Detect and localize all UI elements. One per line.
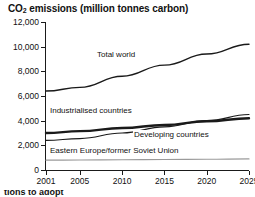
y-tick [41,71,45,72]
y-tick [41,96,45,97]
x-tick-label: 2005 [70,176,89,186]
y-tick-label: 8,000 [0,66,39,76]
x-tick [164,171,165,175]
y-tick [41,22,45,23]
x-axis-line [45,170,249,171]
chart-title-prefix: CO [8,3,23,14]
chart-title-subscript: 2 [23,7,27,14]
caption-text: tions to adopt [4,190,255,197]
x-tick [207,171,208,175]
y-tick-label: 0 [0,165,39,175]
series-label-total-world: Total world [96,50,136,59]
y-tick-label: 4,000 [0,116,39,126]
y-tick [41,145,45,146]
y-tick [41,121,45,122]
x-tick-label: 2015 [155,176,174,186]
chart-container: CO2 emissions (million tonnes carbon) 12… [0,0,255,197]
series-line-total-world [46,44,249,91]
x-tick-label: 2010 [113,176,132,186]
y-tick-label: 6,000 [0,91,39,101]
x-tick [46,171,47,175]
x-tick-label: 2025 [240,176,255,186]
series-label-industrialised: Industrialised countries [49,106,133,115]
y-tick-label: 2,000 [0,140,39,150]
chart-title-rest: emissions (million tonnes carbon) [27,3,189,14]
chart-title: CO2 emissions (million tonnes carbon) [8,3,188,14]
x-tick [249,171,250,175]
y-tick-label: 10,000 [0,42,39,52]
cropped-caption: tions to adopt [0,190,255,197]
x-tick [122,171,123,175]
x-tick [80,171,81,175]
y-tick [41,47,45,48]
series-line-eastern-europe-former-soviet-union [46,159,249,160]
y-tick [41,170,45,171]
series-label-eastern-europe: Eastern Europe/former Soviet Union [49,146,180,155]
x-tick-label: 2001 [37,176,56,186]
y-tick-label: 12,000 [0,17,39,27]
x-tick-label: 2020 [197,176,216,186]
series-label-developing: Developing countries [133,130,210,139]
